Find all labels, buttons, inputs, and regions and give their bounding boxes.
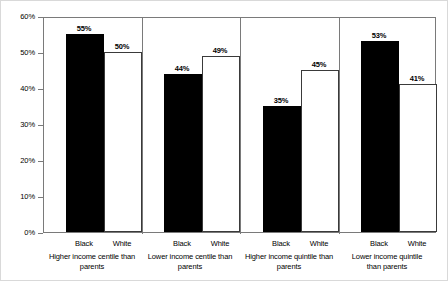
bar-white-group-1 bbox=[104, 52, 142, 232]
bar-black-group-1 bbox=[66, 34, 104, 232]
bar-value-black-group-4: 53% bbox=[360, 31, 398, 40]
y-axis-tick-label: 10% bbox=[1, 193, 35, 201]
bar-value-white-group-2: 49% bbox=[201, 46, 239, 55]
bar-value-black-group-3: 35% bbox=[262, 96, 300, 105]
series-label-white: White bbox=[398, 239, 436, 248]
group-label-3: Higher income quintile than parents bbox=[240, 252, 338, 272]
bar-value-black-group-2: 44% bbox=[163, 64, 201, 73]
bar-value-white-group-1: 50% bbox=[103, 42, 141, 51]
group-label-4-line-1: Lower income quintile bbox=[338, 252, 436, 262]
group-label-4: Lower income quintile than parents bbox=[338, 252, 436, 272]
group-label-2: Lower income centile than parents bbox=[141, 252, 239, 272]
group-label-2-line-1: Lower income centile than bbox=[141, 252, 239, 262]
group-separator bbox=[142, 18, 143, 234]
bar-white-group-3 bbox=[301, 70, 339, 232]
group-separator bbox=[339, 18, 340, 234]
y-axis-tick-mark bbox=[38, 233, 43, 234]
y-axis-tick-label: 50% bbox=[1, 49, 35, 57]
series-label-black: Black bbox=[262, 239, 300, 248]
y-axis-tick-label: 20% bbox=[1, 157, 35, 165]
bar-white-group-2 bbox=[202, 56, 240, 232]
bar-chart-figure: 60% 50% 40% 30% 20% 10% 0% bbox=[0, 0, 448, 281]
group-label-1: Higher income centile than parents bbox=[43, 252, 141, 272]
series-label-white: White bbox=[201, 239, 239, 248]
bar-black-group-2 bbox=[164, 74, 202, 232]
group-label-1-line-1: Higher income centile than bbox=[43, 252, 141, 262]
group-label-3-line-1: Higher income quintile than bbox=[240, 252, 338, 262]
bar-black-group-3 bbox=[263, 106, 301, 232]
group-separator bbox=[240, 18, 241, 234]
group-label-4-line-2: than parents bbox=[338, 262, 436, 272]
y-axis-tick-label: 60% bbox=[1, 13, 35, 21]
bar-black-group-4 bbox=[361, 41, 399, 232]
group-label-3-line-2: parents bbox=[240, 262, 338, 272]
y-axis-tick-label: 40% bbox=[1, 85, 35, 93]
plot-area bbox=[43, 17, 436, 233]
group-label-2-line-2: parents bbox=[141, 262, 239, 272]
y-axis-tick-label: 30% bbox=[1, 121, 35, 129]
series-label-black: Black bbox=[360, 239, 398, 248]
bar-value-white-group-4: 41% bbox=[398, 74, 436, 83]
series-label-white: White bbox=[103, 239, 141, 248]
group-label-1-line-2: parents bbox=[43, 262, 141, 272]
bar-white-group-4 bbox=[399, 84, 437, 232]
bar-value-white-group-3: 45% bbox=[300, 60, 338, 69]
series-label-white: White bbox=[300, 239, 338, 248]
y-axis-tick-label: 0% bbox=[1, 229, 35, 237]
bar-value-black-group-1: 55% bbox=[65, 24, 103, 33]
series-label-black: Black bbox=[65, 239, 103, 248]
series-label-black: Black bbox=[163, 239, 201, 248]
